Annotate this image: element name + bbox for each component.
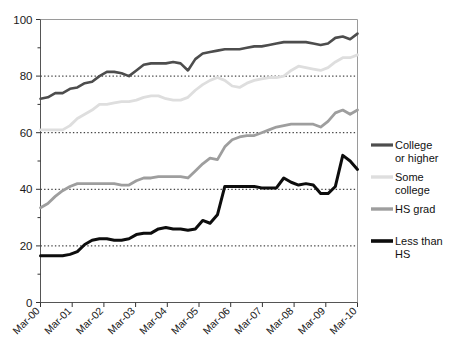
series-line xyxy=(41,110,358,208)
xtick-label: Mar-08 xyxy=(264,304,296,336)
axis-layer xyxy=(36,20,358,308)
line-chart: 020406080100 Mar-00Mar-01Mar-02Mar-03Mar… xyxy=(0,0,465,358)
legend-label: or higher xyxy=(395,152,439,164)
legend-label: College xyxy=(395,139,432,151)
xtick-label: Mar-02 xyxy=(73,304,105,336)
ytick-label: 60 xyxy=(20,127,33,139)
xtick-label-layer: Mar-00Mar-01Mar-02Mar-03Mar-04Mar-05Mar-… xyxy=(10,304,359,336)
xtick-label: Mar-10 xyxy=(327,304,359,336)
legend-label: college xyxy=(395,184,430,196)
ytick-label: 100 xyxy=(13,14,32,26)
legend-layer: Collegeor higherSomecollegeHS gradLess t… xyxy=(371,139,443,260)
ytick-label: 40 xyxy=(20,183,33,195)
legend-label: Less than xyxy=(395,235,443,247)
grid-layer xyxy=(41,76,358,246)
xtick-label: Mar-04 xyxy=(137,304,169,336)
series-line xyxy=(41,155,358,255)
legend-label: HS xyxy=(395,248,410,260)
xtick-label: Mar-07 xyxy=(232,304,264,336)
ytick-label: 80 xyxy=(20,70,33,82)
xtick-label: Mar-03 xyxy=(105,304,137,336)
xtick-label: Mar-01 xyxy=(42,304,74,336)
xtick-label: Mar-09 xyxy=(295,304,327,336)
ytick-label-layer: 020406080100 xyxy=(13,14,32,309)
ytick-label: 20 xyxy=(20,240,33,252)
series-line xyxy=(41,55,358,130)
xtick-label: Mar-00 xyxy=(10,304,42,336)
chart-canvas: 020406080100 Mar-00Mar-01Mar-02Mar-03Mar… xyxy=(0,0,465,358)
xtick-label: Mar-05 xyxy=(168,304,200,336)
series-layer xyxy=(41,34,358,256)
legend-label: HS grad xyxy=(395,203,435,215)
legend-label: Some xyxy=(395,171,424,183)
xtick-label: Mar-06 xyxy=(200,304,232,336)
